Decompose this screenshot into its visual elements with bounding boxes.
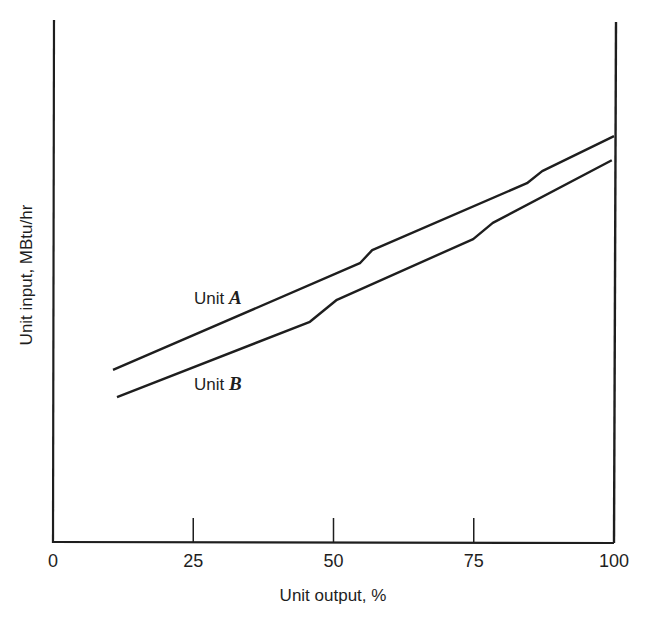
y-axis-left [53, 20, 54, 543]
x-tick-label: 100 [599, 551, 629, 571]
x-axis-ticks [193, 518, 474, 542]
x-axis-tick-labels: 0255075100 [48, 551, 629, 571]
chart: 0255075100 Unit A Unit B Unit output, % … [0, 0, 648, 622]
x-tick-label: 50 [323, 551, 343, 571]
y-axis-right [614, 22, 616, 543]
x-tick-label: 0 [48, 551, 58, 571]
x-axis-label: Unit output, % [280, 586, 387, 605]
x-tick-label: 25 [183, 551, 203, 571]
y-axis-label: Unit input, MBtu/hr [17, 204, 36, 345]
unit-a-label: Unit A [194, 287, 242, 308]
x-axis [53, 542, 614, 543]
unit-b-label: Unit B [194, 373, 242, 394]
unit-a-line [113, 136, 614, 370]
unit-b-line [117, 160, 612, 397]
x-tick-label: 75 [464, 551, 484, 571]
